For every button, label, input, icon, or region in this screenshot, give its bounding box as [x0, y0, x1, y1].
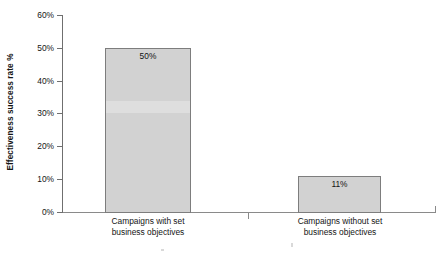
x-axis-category-label-line: Campaigns without set — [270, 216, 410, 227]
y-axis-tick — [57, 81, 63, 82]
x-axis-category-label-line: Campaigns with set — [78, 216, 218, 227]
y-axis-tick — [57, 15, 63, 16]
y-axis-tick-label: 50% — [37, 44, 54, 52]
x-axis-category-label-line: business objectives — [270, 227, 410, 238]
scan-artifact — [106, 101, 190, 113]
scan-speck — [291, 243, 293, 247]
y-axis-tick — [57, 48, 63, 49]
y-axis-tick — [57, 113, 63, 114]
x-axis-tick — [435, 206, 436, 213]
y-axis-tick — [57, 212, 63, 213]
bar-value-label: 50% — [106, 52, 190, 61]
bar-campaigns-with-objectives: 50% — [105, 48, 191, 213]
bar-value-label: 11% — [299, 180, 380, 189]
y-axis-title: Effectiveness success rate % — [6, 27, 15, 197]
y-axis-line — [62, 15, 63, 213]
y-axis-tick-label: 30% — [37, 109, 54, 117]
x-axis-category-label-line: business objectives — [78, 227, 218, 238]
y-axis-tick-label: 10% — [37, 175, 54, 183]
bar-chart: Effectiveness success rate % 0% 10% 20% … — [0, 0, 446, 253]
scan-speck — [161, 249, 164, 251]
bar-campaigns-without-objectives: 11% — [298, 176, 381, 213]
x-axis-category-label: Campaigns without set business objective… — [270, 216, 410, 239]
y-axis-tick — [57, 146, 63, 147]
x-axis-category-label: Campaigns with set business objectives — [78, 216, 218, 239]
y-axis-tick — [57, 179, 63, 180]
y-axis-tick-label: 40% — [37, 77, 54, 85]
y-axis-tick-label: 0% — [42, 208, 54, 216]
y-axis-tick-label: 60% — [37, 11, 54, 19]
y-axis-tick-label: 20% — [37, 142, 54, 150]
x-axis-tick — [248, 213, 249, 219]
